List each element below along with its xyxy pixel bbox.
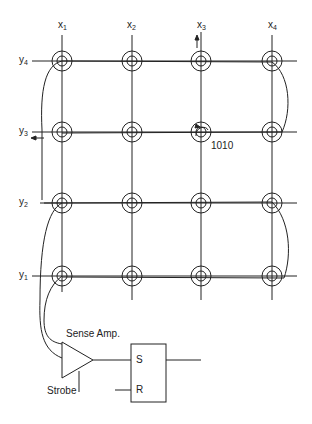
- strobe-label: Strobe: [47, 386, 76, 396]
- sense-amp-label: Sense Amp.: [66, 329, 120, 339]
- column-label-x3: x3: [197, 20, 206, 31]
- row-label-y4: y4: [19, 55, 28, 66]
- column-label-x4: x4: [268, 20, 277, 31]
- row-label-y2: y2: [19, 197, 28, 208]
- selected-core-address-label: 1010: [211, 141, 233, 151]
- column-label-x1: x1: [58, 20, 67, 31]
- core-memory-diagram: [0, 0, 312, 424]
- row-label-y3: y3: [19, 126, 28, 137]
- core-grid: [52, 51, 282, 286]
- sense-wire: [40, 61, 289, 358]
- column-label-x2: x2: [127, 20, 136, 31]
- sense-amplifier: [62, 342, 93, 378]
- x3-current-arrow-icon: [195, 35, 199, 40]
- row-label-y1: y1: [19, 270, 28, 281]
- y3-current-arrow-icon: [31, 136, 36, 140]
- flipflop-reset-label: R: [136, 385, 143, 395]
- flipflop-set-label: S: [136, 355, 143, 365]
